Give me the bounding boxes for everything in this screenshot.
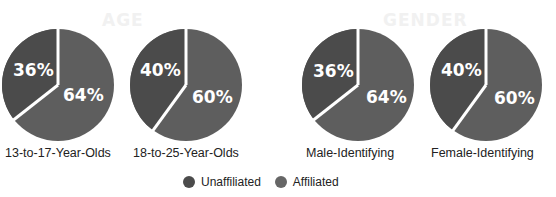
legend-label-affiliated: Affiliated <box>293 175 339 189</box>
legend-item-affiliated: Affiliated <box>275 175 339 189</box>
pie-2-label: 18-to-25-Year-Olds <box>133 146 239 160</box>
pie-1-unaffiliated-pct: 36% <box>13 60 54 80</box>
pie-chart-18-25 <box>129 28 243 142</box>
pie-4-unaffiliated-pct: 40% <box>441 60 482 80</box>
pie-2-unaffiliated-pct: 40% <box>140 60 181 80</box>
pie-1-affiliated-pct: 64% <box>63 85 104 105</box>
legend: Unaffiliated Affiliated <box>183 175 353 189</box>
pie-4-label: Female-Identifying <box>431 146 534 160</box>
pie-4-affiliated-pct: 60% <box>494 88 535 108</box>
affiliated-swatch-icon <box>275 176 287 188</box>
pie-2-affiliated-pct: 60% <box>192 87 233 107</box>
pie-3-unaffiliated-pct: 36% <box>313 61 354 81</box>
unaffiliated-swatch-icon <box>183 176 195 188</box>
pie-3-affiliated-pct: 64% <box>366 87 407 107</box>
legend-item-unaffiliated: Unaffiliated <box>183 175 261 189</box>
section-title-age: AGE <box>102 10 144 30</box>
legend-label-unaffiliated: Unaffiliated <box>201 175 261 189</box>
pie-1-label: 13-to-17-Year-Olds <box>5 146 111 160</box>
pie-chart-male <box>301 28 415 142</box>
section-title-gender: GENDER <box>383 10 468 30</box>
pie-chart-female <box>429 28 543 142</box>
pie-3-label: Male-Identifying <box>306 146 394 160</box>
